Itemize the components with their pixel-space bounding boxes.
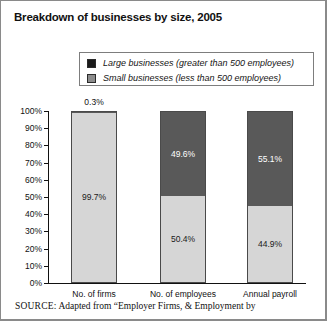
bar-label-payroll-large: 55.1% — [258, 154, 282, 164]
y-axis-line — [48, 111, 49, 284]
chart-legend: Large businesses (greater than 500 emplo… — [79, 52, 314, 86]
y-tick-mark — [44, 180, 48, 181]
y-tick-mark — [44, 145, 48, 146]
bar-segment-small: 50.4% — [161, 196, 205, 282]
legend-swatch-small-icon — [87, 74, 96, 83]
x-tick-label-firms: No. of firms — [49, 289, 139, 299]
y-tick-mark — [44, 283, 48, 284]
x-tick-label-employees: No. of employees — [138, 289, 228, 299]
y-tick-label-70: 70% — [25, 158, 42, 168]
y-tick-mark — [44, 231, 48, 232]
y-tick-label-20: 20% — [25, 244, 42, 254]
y-tick-label-90: 90% — [25, 123, 42, 133]
legend-label-small: Small businesses (less than 500 employee… — [103, 73, 281, 83]
y-tick-mark — [44, 249, 48, 250]
legend-item-large: Large businesses (greater than 500 emplo… — [87, 56, 313, 70]
y-tick-label-60: 60% — [25, 175, 42, 185]
bar-label-firms-small: 99.7% — [82, 192, 106, 202]
bar-group-payroll: 55.1% 44.9% — [247, 111, 293, 283]
bar-group-firms: 0.3% 99.7% — [71, 111, 117, 283]
x-axis-line — [48, 283, 306, 284]
chart-figure: Breakdown of businesses by size, 2005 La… — [0, 0, 327, 321]
source-note: SOURCE: Adapted from “Employer Firms, & … — [15, 301, 255, 311]
bar-label-employees-large: 49.6% — [171, 149, 195, 159]
bar-label-payroll-small: 44.9% — [258, 239, 282, 249]
bar-label-firms-large: 0.3% — [71, 97, 117, 107]
y-tick-label-0: 0% — [30, 278, 42, 288]
y-tick-label-40: 40% — [25, 209, 42, 219]
y-tick-mark — [44, 111, 48, 112]
x-tick-label-payroll: Annual payroll — [225, 289, 315, 299]
source-text: Adapted from “Employer Firms, & Employme… — [58, 301, 255, 311]
y-tick-label-30: 30% — [25, 226, 42, 236]
y-tick-label-100: 100% — [20, 106, 42, 116]
y-tick-label-80: 80% — [25, 140, 42, 150]
stacked-bar-payroll[interactable]: 55.1% 44.9% — [247, 111, 293, 283]
y-tick-mark — [44, 214, 48, 215]
stacked-bar-employees[interactable]: 49.6% 50.4% — [160, 111, 206, 283]
y-tick-mark — [44, 266, 48, 267]
chart-title: Breakdown of businesses by size, 2005 — [14, 11, 222, 23]
bar-segment-small: 99.7% — [72, 113, 116, 282]
bar-segment-small: 44.9% — [248, 206, 292, 282]
stacked-bar-firms[interactable]: 99.7% — [71, 111, 117, 283]
y-tick-label-10: 10% — [25, 261, 42, 271]
legend-swatch-large-icon — [87, 59, 96, 68]
plot-area: 100% 90% 80% 70% 60% 50% 40% 30% 20% 10%… — [48, 111, 306, 284]
legend-item-small: Small businesses (less than 500 employee… — [87, 71, 313, 85]
legend-label-large: Large businesses (greater than 500 emplo… — [103, 58, 294, 68]
y-tick-mark — [44, 163, 48, 164]
bar-segment-large: 55.1% — [248, 112, 292, 206]
bar-group-employees: 49.6% 50.4% — [160, 111, 206, 283]
source-kicker: SOURCE: — [15, 301, 57, 311]
y-tick-label-50: 50% — [25, 192, 42, 202]
bar-label-employees-small: 50.4% — [171, 234, 195, 244]
y-tick-mark — [44, 197, 48, 198]
y-tick-mark — [44, 128, 48, 129]
bar-segment-large: 49.6% — [161, 112, 205, 196]
